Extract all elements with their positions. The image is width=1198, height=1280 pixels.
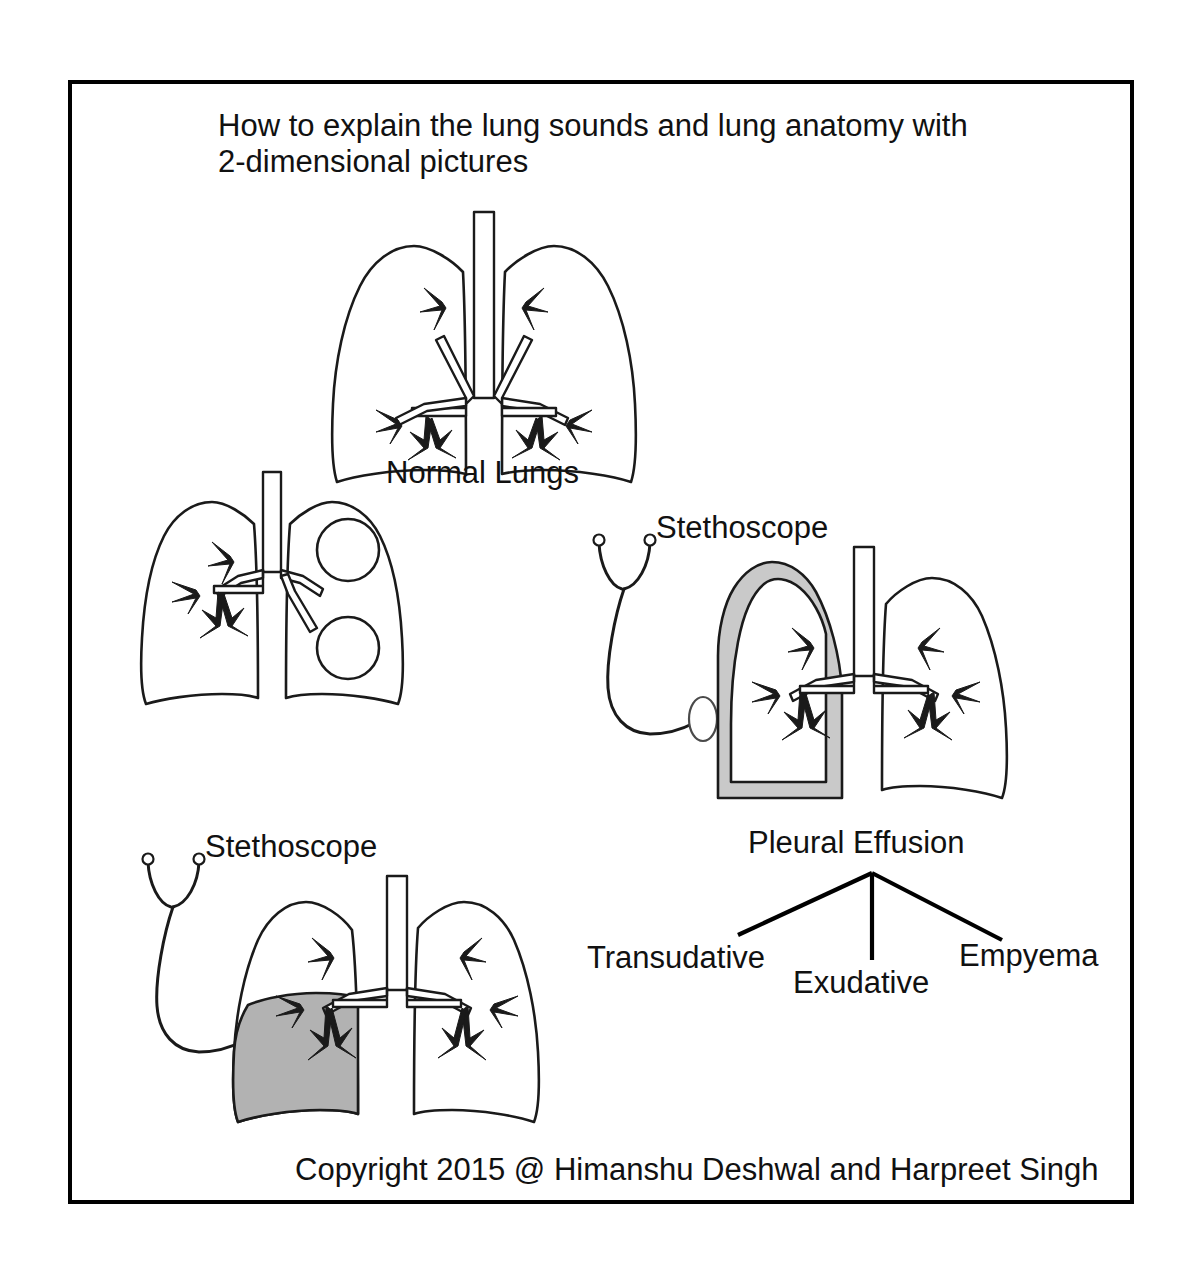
tree-branch-left <box>738 873 872 935</box>
classification-tree: Transudative Exudative Empyema <box>587 873 1099 1000</box>
copyright-notice: Copyright 2015 @ Himanshu Deshwal and Ha… <box>295 1152 1098 1187</box>
cyst-icon-lower <box>317 617 379 679</box>
trachea-icon <box>854 547 874 676</box>
lungs-icon-right <box>502 246 636 482</box>
diagram-root: How to explain the lung sounds and lung … <box>0 0 1198 1280</box>
panel-normal-lungs: Normal Lungs <box>332 212 636 490</box>
figure-title-line-2: 2-dimensional pictures <box>218 144 528 179</box>
stethoscope-icon <box>594 535 718 742</box>
trachea-icon <box>474 212 494 398</box>
diagram-canvas: How to explain the lung sounds and lung … <box>0 0 1198 1280</box>
panel-pleural-effusion: Stethoscope Pleural Effus <box>594 510 1007 860</box>
panel-cystic-lungs <box>141 472 403 704</box>
trachea-icon <box>387 876 407 990</box>
trachea-icon <box>263 472 281 572</box>
lungs-icon-left <box>141 502 258 704</box>
cyst-icon-upper <box>317 519 379 581</box>
stethoscope-label: Stethoscope <box>656 510 828 545</box>
stethoscope-label: Stethoscope <box>205 829 377 864</box>
classification-node-exudative: Exudative <box>793 965 929 1000</box>
figure-title-line-1: How to explain the lung sounds and lung … <box>218 108 968 143</box>
classification-node-empyema: Empyema <box>959 938 1099 973</box>
panel-empyema-lung: Stethoscope <box>143 829 539 1122</box>
lungs-icon-left <box>332 246 466 482</box>
lungs-icon-right <box>414 902 539 1122</box>
panel-label-normal-lungs: Normal Lungs <box>386 455 579 490</box>
tree-branch-right <box>872 873 1002 940</box>
classification-node-transudative: Transudative <box>587 940 765 975</box>
panel-label-pleural-effusion: Pleural Effusion <box>748 825 965 860</box>
